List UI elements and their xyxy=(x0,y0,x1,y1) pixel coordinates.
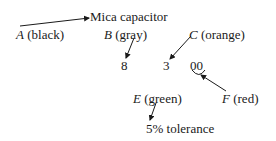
label-f-letter: F xyxy=(222,91,230,106)
diagram-title: Mica capacitor xyxy=(90,10,168,23)
label-c-color: (orange) xyxy=(201,27,245,42)
multiplier: 00 xyxy=(190,59,203,72)
label-a-letter: A xyxy=(16,27,24,42)
label-b-letter: B xyxy=(104,27,112,42)
label-a-color: (black) xyxy=(27,27,64,42)
label-c-letter: C xyxy=(189,27,198,42)
label-f: F (red) xyxy=(222,92,258,105)
label-e-color: (green) xyxy=(144,91,182,106)
digit-2: 3 xyxy=(163,59,170,72)
digit-1: 8 xyxy=(121,59,128,72)
label-e: E (green) xyxy=(133,92,182,105)
label-b: B (gray) xyxy=(104,28,147,41)
label-b-color: (gray) xyxy=(115,27,147,42)
tolerance-label: 5% tolerance xyxy=(146,122,214,135)
arrow-a-to-title xyxy=(20,18,89,26)
label-a: A (black) xyxy=(16,28,64,41)
arrow-c-to-3 xyxy=(170,36,191,59)
arrow-f-to-00 xyxy=(201,75,226,91)
label-f-color: (red) xyxy=(233,91,258,106)
label-e-letter: E xyxy=(133,91,141,106)
label-c: C (orange) xyxy=(189,28,245,41)
